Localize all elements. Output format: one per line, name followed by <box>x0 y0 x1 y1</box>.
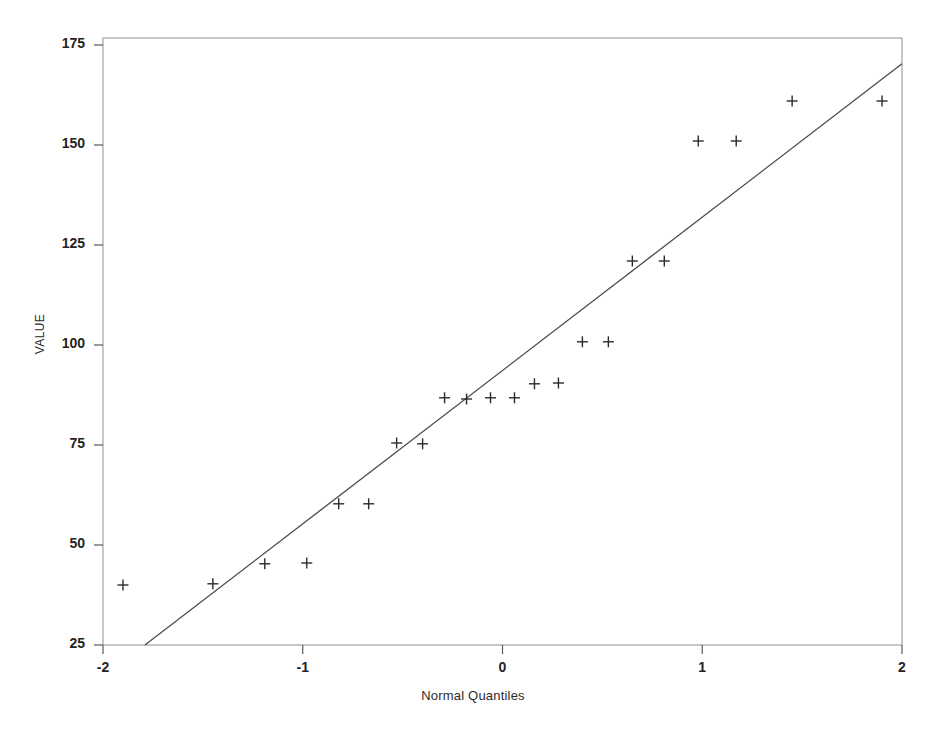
data-point-plus-marker <box>787 96 798 107</box>
reference-line <box>145 64 902 645</box>
data-point-plus-marker <box>577 336 588 347</box>
plot-border <box>103 38 902 645</box>
data-point-plus-marker <box>731 136 742 147</box>
data-point-plus-marker <box>301 558 312 569</box>
data-point-plus-marker <box>877 96 888 107</box>
data-point-plus-marker <box>117 580 128 591</box>
qq-plot-figure: VALUE Normal Quantiles 25507510012515017… <box>0 0 946 744</box>
data-point-plus-marker <box>485 392 496 403</box>
reference-line-path <box>145 64 902 645</box>
plot-frame <box>103 38 902 645</box>
data-point-plus-marker <box>627 256 638 267</box>
data-point-plus-marker <box>529 378 540 389</box>
axis-ticks <box>94 45 902 654</box>
data-point-plus-marker <box>693 136 704 147</box>
data-point-plus-marker <box>363 498 374 509</box>
data-point-plus-marker <box>659 256 670 267</box>
data-points <box>117 96 887 591</box>
data-point-plus-marker <box>391 438 402 449</box>
data-point-plus-marker <box>417 438 428 449</box>
data-point-plus-marker <box>553 378 564 389</box>
data-point-plus-marker <box>509 392 520 403</box>
plot-canvas <box>0 0 946 744</box>
data-point-plus-marker <box>207 578 218 589</box>
data-point-plus-marker <box>439 392 450 403</box>
data-point-plus-marker <box>603 336 614 347</box>
data-point-plus-marker <box>259 558 270 569</box>
